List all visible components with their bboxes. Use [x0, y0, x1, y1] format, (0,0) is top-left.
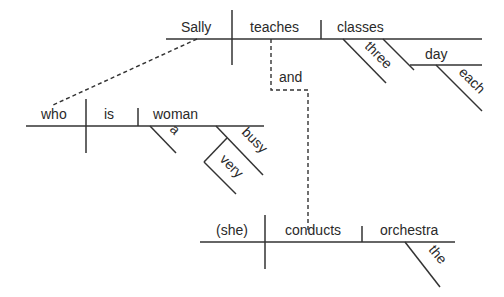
- second-verb-word: conducts: [285, 222, 341, 238]
- modifier-word-a: a: [167, 121, 184, 138]
- second-subject-word: (she): [216, 222, 248, 238]
- modifier-word-three: three: [362, 38, 396, 72]
- sentence-diagram: Sally teaches classes three day each who…: [0, 0, 504, 297]
- modifier-word-day: day: [425, 46, 448, 62]
- object-word: classes: [337, 19, 384, 35]
- conjunction-dashed-line: [271, 39, 308, 230]
- conjunction-connector: and: [271, 39, 308, 230]
- modifier-word-busy: busy: [239, 124, 271, 156]
- second-clause: (she) conducts orchestra the: [200, 215, 455, 287]
- modifier-word-each: each: [456, 64, 489, 97]
- modifier-word-very: very: [217, 151, 247, 181]
- relative-subject-word: who: [40, 106, 67, 122]
- main-clause: Sally teaches classes three day each: [166, 10, 489, 111]
- relative-connector: [53, 39, 197, 105]
- verb-word: teaches: [250, 19, 299, 35]
- modifier-word-the: the: [426, 242, 451, 267]
- relative-complement-word: woman: [152, 106, 198, 122]
- conjunction-word: and: [279, 69, 302, 85]
- relative-clause: who is woman a busy very: [26, 99, 271, 194]
- subject-word: Sally: [181, 19, 211, 35]
- relative-verb-word: is: [104, 106, 114, 122]
- second-object-word: orchestra: [380, 222, 439, 238]
